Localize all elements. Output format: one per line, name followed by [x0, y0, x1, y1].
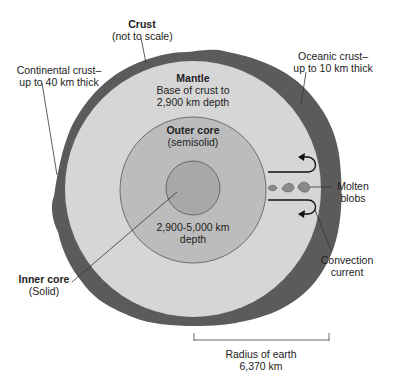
radius-scale-bracket [194, 333, 329, 341]
crust-title: Crust [112, 18, 172, 30]
convection-line2: current [312, 266, 382, 278]
molten-blob-small [268, 185, 277, 190]
radius-label: Radius of earth 6,370 km [216, 348, 306, 372]
radius-line1: Radius of earth [216, 348, 306, 360]
mantle-title: Mantle [148, 72, 238, 84]
inner-core-layer [166, 161, 220, 215]
mantle-line1: Base of crust to [148, 84, 238, 96]
molten-blobs-label: Molten blobs [328, 180, 378, 204]
outer-core-title: Outer core [148, 124, 238, 136]
oceanic-crust-line2: up to 10 km thick [288, 62, 378, 74]
inner-core-note: (Solid) [14, 285, 74, 297]
crust-label: Crust (not to scale) [112, 18, 172, 42]
inner-core-title: Inner core [14, 273, 74, 285]
oceanic-crust-label: Oceanic crust– up to 10 km thick [288, 50, 378, 74]
continental-crust-leader-line [42, 83, 57, 175]
molten-blobs-line1: Molten [328, 180, 378, 192]
inner-core-label: Inner core (Solid) [14, 273, 74, 297]
outer-core-note: (semisolid) [148, 136, 238, 148]
continental-crust-line2: up to 40 km thick [14, 76, 104, 88]
crust-note: (not to scale) [112, 30, 172, 42]
convection-current-label: Convection current [312, 254, 382, 278]
continental-crust-label: Continental crust– up to 40 km thick [14, 64, 104, 88]
core-depth-line1: 2,900-5,000 km [148, 221, 238, 233]
core-depth-line2: depth [148, 233, 238, 245]
molten-blobs-line2: blobs [328, 192, 378, 204]
oceanic-crust-line1: Oceanic crust– [288, 50, 378, 62]
mantle-label: Mantle Base of crust to 2,900 km depth [148, 72, 238, 108]
outer-core-label: Outer core (semisolid) [148, 124, 238, 148]
radius-line2: 6,370 km [216, 360, 306, 372]
core-depth-label: 2,900-5,000 km depth [148, 221, 238, 245]
continental-crust-line1: Continental crust– [14, 64, 104, 76]
convection-line1: Convection [312, 254, 382, 266]
mantle-line2: 2,900 km depth [148, 96, 238, 108]
